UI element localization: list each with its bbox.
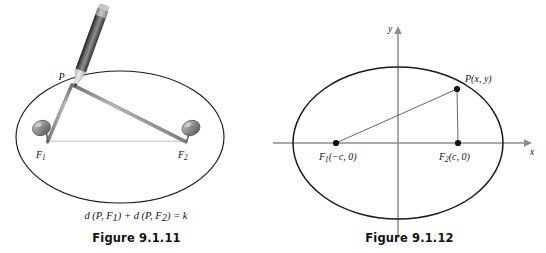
string-segment-f1-f2 xyxy=(47,141,186,142)
y-axis xyxy=(394,26,401,238)
label-focus-1: F1 xyxy=(35,149,46,162)
label-point-p: P(x, y) xyxy=(464,73,492,85)
figure-sheet: P F1 F2 d (P, F1) + d (P, F2) = k Figure… xyxy=(0,0,546,253)
figure-panel-9-1-11: P F1 F2 d (P, F1) + d (P, F2) = k Figure… xyxy=(0,0,273,253)
label-axis-x: x xyxy=(529,147,535,157)
dot-focus-2 xyxy=(455,140,461,146)
label-focus-1: F1(−c, 0) xyxy=(318,151,357,164)
equation-sum-of-distances: d (P, F1) + d (P, F2) = k xyxy=(84,210,187,223)
dot-focus-1 xyxy=(333,140,339,146)
string-segment-p-f2 xyxy=(73,84,187,142)
tack-f2 xyxy=(180,118,203,142)
label-axis-y: y xyxy=(387,24,393,34)
label-focus-2: F2(c, 0) xyxy=(438,151,470,164)
radius-f2-p xyxy=(457,89,458,143)
ellipse-string-construction-diagram: P F1 F2 d (P, F1) + d (P, F2) = k xyxy=(0,0,273,253)
pencil-icon xyxy=(69,3,109,89)
radius-f1-p xyxy=(336,89,457,143)
x-axis xyxy=(273,139,532,146)
figure-panel-9-1-12: y x P(x, y) F1(−c, 0) F2(c, 0) Figure 9.… xyxy=(273,0,546,253)
dot-point-p xyxy=(454,86,460,92)
ellipse-coordinate-plane-diagram: y x P(x, y) F1(−c, 0) F2(c, 0) xyxy=(273,0,546,253)
label-point-p: P xyxy=(57,71,64,82)
string-segment-p-f1 xyxy=(46,85,72,142)
figure-caption-9-1-12: Figure 9.1.12 xyxy=(273,231,546,245)
label-focus-2: F2 xyxy=(177,149,188,162)
figure-caption-9-1-11: Figure 9.1.11 xyxy=(0,231,273,245)
